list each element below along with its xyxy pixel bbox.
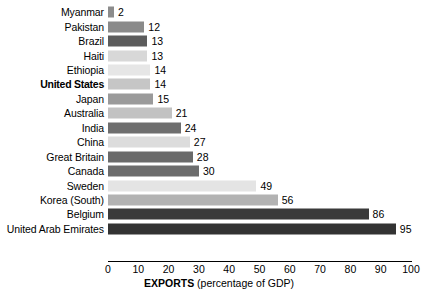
bar-value-label: 14 (154, 64, 166, 75)
bar-row: Haiti13 (0, 48, 438, 62)
category-label: Belgium (67, 209, 108, 220)
category-label: India (82, 122, 108, 133)
bar-value-label: 21 (176, 108, 188, 119)
bar (108, 21, 144, 32)
bar-value-label: 13 (151, 50, 163, 61)
x-tick-label: 100 (402, 263, 420, 275)
category-label: United States (40, 79, 108, 90)
bar-value-label: 86 (373, 209, 385, 220)
bar (108, 223, 396, 234)
category-label: United Arab Emirates (7, 223, 108, 234)
x-axis-title-plain: (percentage of GDP) (194, 277, 294, 289)
bar-row: Belgium86 (0, 207, 438, 221)
bar-row: Korea (South)56 (0, 193, 438, 207)
category-label: Myanmar (61, 7, 108, 18)
bar-value-label: 13 (151, 36, 163, 47)
bar (108, 166, 199, 177)
exports-bar-chart: EXPORTS (percentage of GDP) Myanmar2Paki… (0, 0, 438, 295)
category-label: Pakistan (65, 21, 108, 32)
bar-value-label: 56 (282, 195, 294, 206)
bar (108, 151, 193, 162)
bar-row: India24 (0, 121, 438, 135)
bar (108, 93, 153, 104)
bar-row: United Arab Emirates95 (0, 222, 438, 236)
x-axis-title-bold: EXPORTS (144, 277, 194, 289)
bar-value-label: 30 (203, 166, 215, 177)
x-tick-label: 0 (105, 263, 111, 275)
x-tick-label: 60 (284, 263, 296, 275)
bar-row: China27 (0, 135, 438, 149)
bar-row: Japan15 (0, 92, 438, 106)
bar-row: Sweden49 (0, 178, 438, 192)
bar (108, 108, 172, 119)
bar-row: Canada30 (0, 164, 438, 178)
bar (108, 36, 147, 47)
category-label: Haiti (83, 50, 108, 61)
bar-value-label: 2 (118, 7, 124, 18)
bar-row: United States14 (0, 77, 438, 91)
bar-row: Pakistan12 (0, 19, 438, 33)
x-tick-label: 50 (254, 263, 266, 275)
category-label: Korea (South) (40, 195, 108, 206)
bar (108, 7, 114, 18)
category-label: Sweden (67, 180, 108, 191)
category-label: Great Britain (46, 151, 108, 162)
bar-value-label: 15 (157, 93, 169, 104)
bar (108, 137, 190, 148)
bar (108, 195, 278, 206)
bar-value-label: 95 (400, 223, 412, 234)
x-axis-title: EXPORTS (percentage of GDP) (0, 277, 438, 289)
x-tick-label: 70 (314, 263, 326, 275)
x-tick-label: 90 (375, 263, 387, 275)
bar-row: Brazil13 (0, 34, 438, 48)
bar (108, 209, 369, 220)
x-tick-label: 30 (193, 263, 205, 275)
bar-value-label: 12 (148, 21, 160, 32)
x-axis-line (108, 261, 412, 262)
category-label: Canada (68, 166, 108, 177)
x-tick-label: 80 (345, 263, 357, 275)
bar (108, 122, 181, 133)
bar-row: Great Britain28 (0, 150, 438, 164)
bar-value-label: 27 (194, 137, 206, 148)
x-tick-label: 10 (132, 263, 144, 275)
category-label: China (77, 137, 108, 148)
bar (108, 50, 147, 61)
category-label: Japan (76, 93, 108, 104)
bar-value-label: 49 (260, 180, 272, 191)
bar-row: Myanmar2 (0, 5, 438, 19)
x-tick-label: 20 (163, 263, 175, 275)
category-label: Australia (64, 108, 108, 119)
category-label: Ethiopia (67, 64, 108, 75)
bar (108, 180, 256, 191)
bar (108, 64, 150, 75)
bar-row: Australia21 (0, 106, 438, 120)
category-label: Brazil (78, 36, 108, 47)
bar-row: Ethiopia14 (0, 63, 438, 77)
bar-value-label: 14 (154, 79, 166, 90)
bar-value-label: 28 (197, 151, 209, 162)
x-tick-label: 40 (223, 263, 235, 275)
bar-value-label: 24 (185, 122, 197, 133)
bar (108, 79, 150, 90)
